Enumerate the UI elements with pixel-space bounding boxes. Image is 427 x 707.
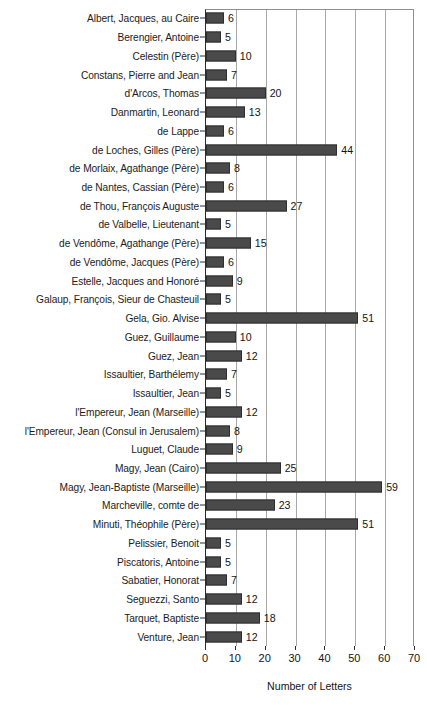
category-tick [200, 336, 205, 337]
bar-row: l'Empereur, Jean (Consul in Jerusalem)8 [0, 421, 427, 440]
category-label: de Nantes, Cassian (Père) [81, 181, 199, 192]
category-tick [200, 524, 205, 525]
category-label: Danmartin, Leonard [111, 107, 199, 118]
bar-value-label: 5 [225, 537, 231, 549]
category-tick [200, 449, 205, 450]
category-tick [200, 617, 205, 618]
bar [206, 331, 236, 342]
bar-value-label: 6 [228, 181, 234, 193]
bar-value-label: 8 [234, 425, 240, 437]
bar-row: Seguezzi, Santo12 [0, 590, 427, 609]
bar [206, 69, 227, 80]
bar-row: Piscatoris, Antoine5 [0, 552, 427, 571]
bar [206, 481, 382, 492]
category-label: Constans, Pierre and Jean [81, 69, 199, 80]
bar [206, 631, 242, 642]
bar-row: Berengier, Antoine5 [0, 28, 427, 47]
x-axis-tick [295, 646, 296, 650]
category-tick [200, 280, 205, 281]
category-label: Celestin (Père) [133, 50, 199, 61]
category-label: de Morlaix, Agathange (Père) [69, 163, 199, 174]
bar-value-label: 5 [225, 31, 231, 43]
category-tick [200, 149, 205, 150]
bar-row: de Nantes, Cassian (Père)6 [0, 178, 427, 197]
bar [206, 463, 281, 474]
x-axis-tick [324, 646, 325, 650]
category-tick [200, 430, 205, 431]
category-tick [200, 112, 205, 113]
category-label: Pelissier, Benoit [128, 537, 199, 548]
bar-value-label: 9 [237, 275, 243, 287]
bar-value-label: 9 [237, 443, 243, 455]
bar-value-label: 12 [246, 406, 258, 418]
bar-row: Pelissier, Benoit5 [0, 534, 427, 553]
x-axis-tick-label: 10 [229, 652, 241, 664]
bar-row: de Thou, François Auguste27 [0, 196, 427, 215]
bar [206, 444, 233, 455]
bar [206, 13, 224, 24]
category-tick [200, 374, 205, 375]
bar-value-label: 12 [246, 593, 258, 605]
category-label: Marcheville, comte de [102, 500, 199, 511]
category-label: Guez, Jean [148, 350, 199, 361]
category-tick [200, 55, 205, 56]
category-label: de Thou, François Auguste [80, 200, 199, 211]
category-tick [200, 318, 205, 319]
bar-row: Albert, Jacques, au Caire6 [0, 9, 427, 28]
bar [206, 612, 260, 623]
bar-value-label: 51 [362, 312, 374, 324]
bar-row: de Vendôme, Agathange (Père)15 [0, 234, 427, 253]
bar-row: Danmartin, Leonard13 [0, 103, 427, 122]
bar-row: Celestin (Père)10 [0, 46, 427, 65]
category-label: de Lappe [157, 125, 199, 136]
bar-row: Gela, Gio. Alvise51 [0, 309, 427, 328]
bar-row: de Lappe6 [0, 121, 427, 140]
bar [206, 107, 245, 118]
category-tick [200, 261, 205, 262]
category-label: Issaultier, Jean [133, 388, 199, 399]
category-label: Sabatier, Honorat [121, 575, 199, 586]
bar-row: Tarquet, Baptiste18 [0, 609, 427, 628]
x-axis-title: Number of Letters [205, 680, 414, 692]
bar [206, 575, 227, 586]
bar-value-label: 5 [225, 293, 231, 305]
bar-row: Issaultier, Jean5 [0, 384, 427, 403]
category-label: Luguet, Claude [131, 444, 199, 455]
bar-row: Galaup, François, Sieur de Chasteuil5 [0, 290, 427, 309]
bar-row: de Valbelle, Lieutenant5 [0, 215, 427, 234]
bar-row: Sabatier, Honorat7 [0, 571, 427, 590]
bar [206, 519, 358, 530]
x-axis-tick-label: 0 [202, 652, 208, 664]
bar-value-label: 20 [270, 87, 282, 99]
x-axis-tick [354, 646, 355, 650]
category-tick [200, 393, 205, 394]
category-label: l'Empereur, Jean (Consul in Jerusalem) [25, 425, 199, 436]
bar-value-label: 7 [231, 574, 237, 586]
x-axis-tick-label: 50 [348, 652, 360, 664]
category-label: Gela, Gio. Alvise [125, 313, 199, 324]
bar-row: Marcheville, comte de23 [0, 496, 427, 515]
category-tick [200, 599, 205, 600]
category-tick [200, 224, 205, 225]
bar-value-label: 7 [231, 69, 237, 81]
category-label: Galaup, François, Sieur de Chasteuil [36, 294, 199, 305]
category-label: Issaultier, Barthélemy [104, 369, 199, 380]
bar-value-label: 6 [228, 12, 234, 24]
category-tick [200, 243, 205, 244]
category-tick [200, 468, 205, 469]
bar-row: Luguet, Claude9 [0, 440, 427, 459]
category-label: Albert, Jacques, au Caire [87, 13, 199, 24]
bar [206, 369, 227, 380]
category-label: Minuti, Théophile (Père) [93, 519, 199, 530]
bar [206, 256, 224, 267]
bar-value-label: 5 [225, 387, 231, 399]
category-tick [200, 580, 205, 581]
bar [206, 594, 242, 605]
x-axis-tick [235, 646, 236, 650]
category-label: Tarquet, Baptiste [124, 612, 199, 623]
bar-value-label: 15 [255, 237, 267, 249]
bar-value-label: 51 [362, 518, 374, 530]
bar [206, 125, 224, 136]
bar-value-label: 6 [228, 125, 234, 137]
x-axis-tick [265, 646, 266, 650]
